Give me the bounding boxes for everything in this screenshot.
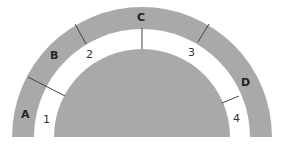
segment-label-d: D	[241, 76, 250, 89]
gap-number-1: 1	[43, 113, 50, 126]
divider-line-d	[222, 96, 239, 103]
gap-number-2: 2	[86, 48, 93, 61]
semicircle-diagram: A B C D 1 2 3 4	[0, 0, 285, 146]
segment-label-a: A	[21, 108, 30, 121]
segment-label-b: B	[50, 49, 58, 62]
segment-label-c: C	[137, 11, 145, 24]
gap-number-3: 3	[188, 46, 195, 59]
gap-number-4: 4	[233, 112, 240, 125]
inner-semicircle	[54, 49, 230, 137]
